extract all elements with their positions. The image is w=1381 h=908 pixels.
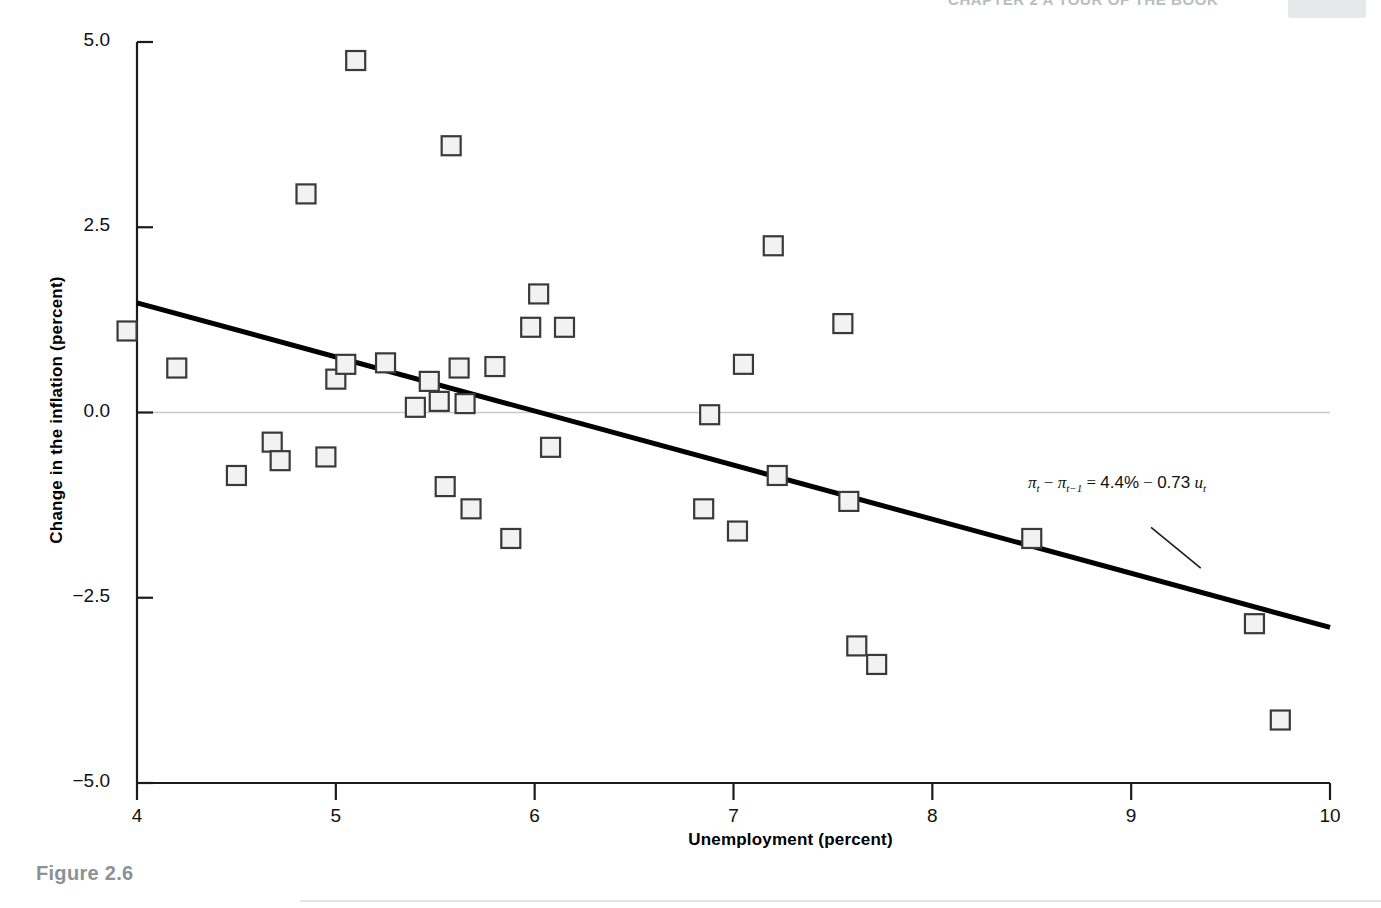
x-axis-tick-label: 10 xyxy=(1290,805,1370,827)
data-point-marker xyxy=(867,655,886,674)
y-axis-tick-label: −5.0 xyxy=(20,770,110,792)
data-point-marker xyxy=(456,394,475,413)
data-point-marker xyxy=(263,433,282,452)
x-axis-title-text: Unemployment (percent) xyxy=(688,830,893,850)
data-point-marker xyxy=(376,353,395,372)
data-point-marker xyxy=(1245,614,1264,633)
data-point-marker xyxy=(521,318,540,337)
page-rule-divider xyxy=(300,900,1381,902)
data-point-marker xyxy=(297,184,316,203)
data-point-group xyxy=(118,51,1290,729)
figure-page: CHAPTER 2 A TOUR OF THE BOOK Change in t… xyxy=(0,0,1381,908)
x-axis-tick-label: 6 xyxy=(495,805,575,827)
data-point-marker xyxy=(406,398,425,417)
y-axis-tick-label: −2.5 xyxy=(20,585,110,607)
data-point-marker xyxy=(1022,529,1041,548)
y-axis-tick-label: 2.5 xyxy=(20,214,110,236)
data-point-marker xyxy=(271,451,290,470)
data-point-marker xyxy=(167,359,186,378)
scatter-plot xyxy=(0,0,1381,858)
data-point-marker xyxy=(485,357,504,376)
data-point-marker xyxy=(833,314,852,333)
data-point-marker xyxy=(734,355,753,374)
x-axis-tick-label: 7 xyxy=(694,805,774,827)
data-point-marker xyxy=(555,318,574,337)
x-axis-tick-label: 4 xyxy=(97,805,177,827)
data-point-marker xyxy=(847,636,866,655)
data-point-marker xyxy=(316,447,335,466)
data-point-marker xyxy=(450,359,469,378)
data-point-marker xyxy=(227,466,246,485)
data-point-marker xyxy=(430,392,449,411)
data-point-marker xyxy=(462,499,481,518)
data-point-marker xyxy=(768,466,787,485)
y-axis-tick-label: 0.0 xyxy=(20,400,110,422)
figure-caption: Figure 2.6 xyxy=(36,862,133,885)
data-point-marker xyxy=(346,51,365,70)
annotation-leader-line xyxy=(1151,527,1201,568)
data-point-marker xyxy=(541,438,560,457)
data-point-marker xyxy=(336,355,355,374)
x-axis-tick-label: 5 xyxy=(296,805,376,827)
data-point-marker xyxy=(529,284,548,303)
data-point-marker xyxy=(700,405,719,424)
regression-equation-annotation: πt − πt−1 = 4.4% − 0.73 ut xyxy=(1028,473,1206,494)
data-point-marker xyxy=(420,372,439,391)
data-point-marker xyxy=(694,499,713,518)
data-point-marker xyxy=(764,236,783,255)
data-point-marker xyxy=(442,136,461,155)
x-axis-tick-label: 9 xyxy=(1091,805,1171,827)
y-axis-tick-label: 5.0 xyxy=(20,29,110,51)
data-point-marker xyxy=(1271,711,1290,730)
chart-figure: Change in the inflation (percent) Unempl… xyxy=(0,0,1381,858)
data-point-marker xyxy=(728,522,747,541)
data-point-marker xyxy=(436,477,455,496)
data-point-marker xyxy=(839,492,858,511)
x-axis-tick-label: 8 xyxy=(892,805,972,827)
data-point-marker xyxy=(118,321,137,340)
x-axis-title: Unemployment (percent) xyxy=(0,830,1381,850)
data-point-marker xyxy=(501,529,520,548)
